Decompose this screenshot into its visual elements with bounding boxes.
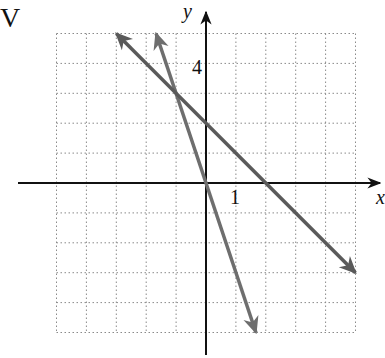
y-axis-label: y [183, 0, 192, 23]
line-y-equals-negx-plus-2 [116, 34, 355, 273]
x-tick-label: 1 [230, 186, 240, 209]
y-tick-label: 4 [192, 56, 202, 79]
coordinate-graph [0, 0, 385, 358]
figure-label: V [0, 2, 20, 34]
x-axis-label: x [376, 186, 385, 209]
